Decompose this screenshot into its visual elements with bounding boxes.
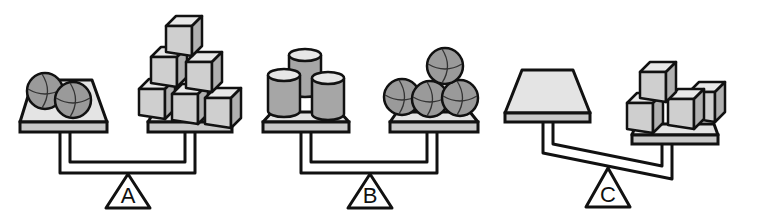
scale-a-label: A bbox=[121, 183, 136, 208]
scale-a-left-pan bbox=[20, 73, 107, 132]
scale-b-label: B bbox=[363, 183, 378, 208]
scale-c-right-pan bbox=[627, 62, 725, 144]
cube-icon bbox=[166, 16, 202, 56]
scale-a: A bbox=[20, 16, 241, 208]
scale-c: C bbox=[505, 62, 725, 207]
scale-b-left-pan bbox=[263, 49, 349, 132]
sphere-icon bbox=[427, 48, 463, 84]
balance-scales-diagram: A B bbox=[0, 0, 758, 224]
scale-a-fulcrum: A bbox=[106, 174, 150, 208]
scale-a-right-pan bbox=[139, 16, 241, 132]
sphere-icon bbox=[55, 82, 91, 118]
scale-c-label: C bbox=[600, 182, 616, 207]
scale-b-fulcrum: B bbox=[348, 174, 392, 208]
sphere-icon bbox=[442, 80, 478, 116]
scale-b: B bbox=[263, 48, 478, 208]
scale-c-left-pan bbox=[505, 70, 590, 122]
scale-c-fulcrum: C bbox=[586, 168, 630, 207]
cylinder-icon bbox=[268, 69, 300, 117]
cube-icon bbox=[205, 88, 241, 128]
scale-b-right-pan bbox=[384, 48, 478, 132]
cube-icon bbox=[186, 52, 222, 92]
cylinder-icon bbox=[312, 72, 344, 120]
cube-icon bbox=[640, 62, 676, 102]
